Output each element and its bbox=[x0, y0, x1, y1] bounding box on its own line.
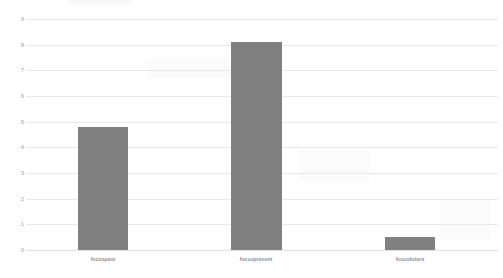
y-axis-tick-label: 5 bbox=[8, 119, 24, 125]
y-axis-tick-label: 2 bbox=[8, 196, 24, 202]
y-axis-tick-label: 7 bbox=[8, 67, 24, 73]
y-axis-tick-label: 9 bbox=[8, 16, 24, 22]
y-axis-tick-label: 8 bbox=[8, 42, 24, 48]
bar-focusfuture[interactable] bbox=[385, 237, 435, 250]
plot-area bbox=[26, 19, 498, 250]
y-axis-tick-labels: 9 8 7 6 5 4 3 2 1 0 bbox=[0, 19, 24, 250]
y-axis-tick-label: 3 bbox=[8, 170, 24, 176]
x-axis-tick-label-focuspresent: focuspresent bbox=[240, 256, 273, 263]
gridline-9 bbox=[26, 19, 498, 20]
x-axis-tick-label-focuspast: focuspast bbox=[91, 256, 116, 263]
y-axis-tick-label: 4 bbox=[8, 144, 24, 150]
bar-focuspast[interactable] bbox=[78, 127, 128, 250]
bar-focuspresent[interactable] bbox=[231, 42, 282, 250]
bar-chart-figure: 9 8 7 6 5 4 3 2 1 0 focuspast focusprese… bbox=[0, 0, 503, 278]
x-axis-tick-labels: focuspast focuspresent focusfuture bbox=[26, 256, 498, 268]
y-axis-tick-label: 1 bbox=[8, 221, 24, 227]
scan-artifact bbox=[70, 0, 130, 5]
y-axis-tick-label: 6 bbox=[8, 93, 24, 99]
y-axis-tick-label: 0 bbox=[8, 247, 24, 253]
gridline-0 bbox=[26, 250, 498, 251]
x-axis-tick-label-focusfuture: focusfuture bbox=[396, 256, 425, 263]
